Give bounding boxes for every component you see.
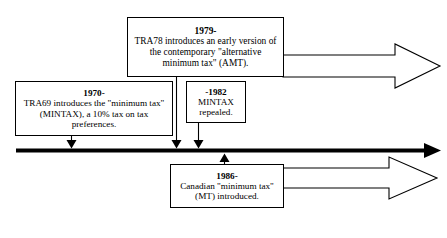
connector-1986-arrowhead-icon: [220, 154, 230, 163]
event-description-1979: TRA78 introduces an early version of the…: [131, 36, 280, 68]
event-box-1970[interactable]: 1970- TRA69 introduces the "minimum tax"…: [15, 81, 173, 136]
event-year-1970: 1970-: [83, 88, 104, 98]
connector-1986: [220, 154, 230, 165]
event-box-1986[interactable]: 1986- Canadian "minimum tax" (MT) introd…: [170, 164, 284, 208]
connector-1982-arrowhead-icon: [194, 140, 204, 149]
timeline-axis: [16, 143, 441, 158]
connector-1970: [67, 136, 77, 149]
timeline-diagram: 1979- TRA78 introduces an early version …: [0, 0, 447, 238]
block-arrow-amt-continues: [283, 44, 440, 88]
event-description-1970: TRA69 introduces the "minimum tax" (MINT…: [19, 98, 169, 129]
event-description-1986: Canadian "minimum tax" (MT) introduced.: [174, 181, 280, 202]
connector-1982: [194, 123, 204, 149]
connector-1970-arrowhead-icon: [67, 140, 77, 149]
event-year-1979: 1979-: [195, 26, 217, 37]
event-year-1982: -1982: [205, 87, 226, 97]
connector-1979: [172, 77, 182, 149]
block-arrow-mt-continues: [283, 157, 437, 199]
timeline-arrowhead-icon: [424, 143, 441, 158]
event-description-1982: MINTAX repealed.: [190, 97, 242, 118]
event-year-1986: 1986-: [216, 171, 237, 181]
connector-1979-arrowhead-icon: [172, 140, 182, 149]
event-box-1982[interactable]: -1982 MINTAX repealed.: [186, 81, 246, 123]
event-box-1979[interactable]: 1979- TRA78 introduces an early version …: [127, 17, 284, 77]
